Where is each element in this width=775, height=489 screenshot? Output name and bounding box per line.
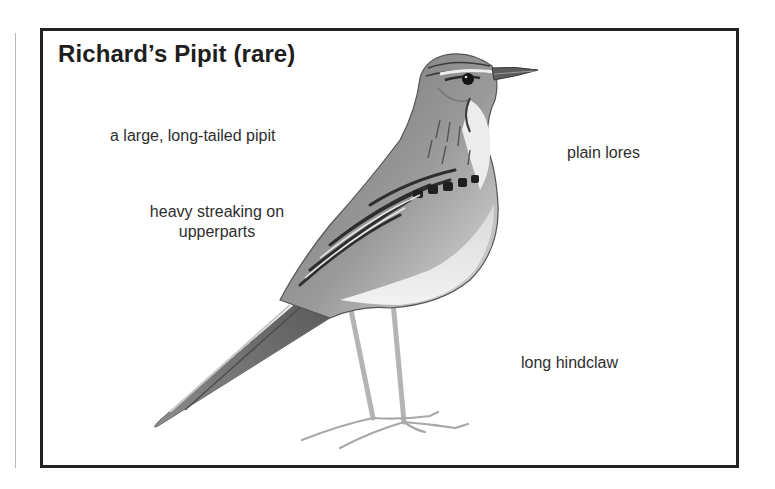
feet — [302, 412, 468, 448]
tail — [154, 300, 330, 427]
species-title: Richard’s Pipit (rare) — [58, 40, 295, 68]
annotation-size: a large, long-tailed pipit — [110, 126, 275, 146]
annotation-streaking: heavy streaking on upperparts — [124, 202, 310, 242]
annotation-streaking-line1: heavy streaking on — [124, 202, 310, 222]
annotation-lores: plain lores — [567, 143, 640, 163]
annotation-streaking-line2: upperparts — [124, 222, 310, 242]
pipit-illustration — [0, 0, 775, 489]
annotation-hindclaw: long hindclaw — [521, 353, 618, 373]
legs — [349, 300, 404, 422]
eye — [462, 73, 474, 85]
